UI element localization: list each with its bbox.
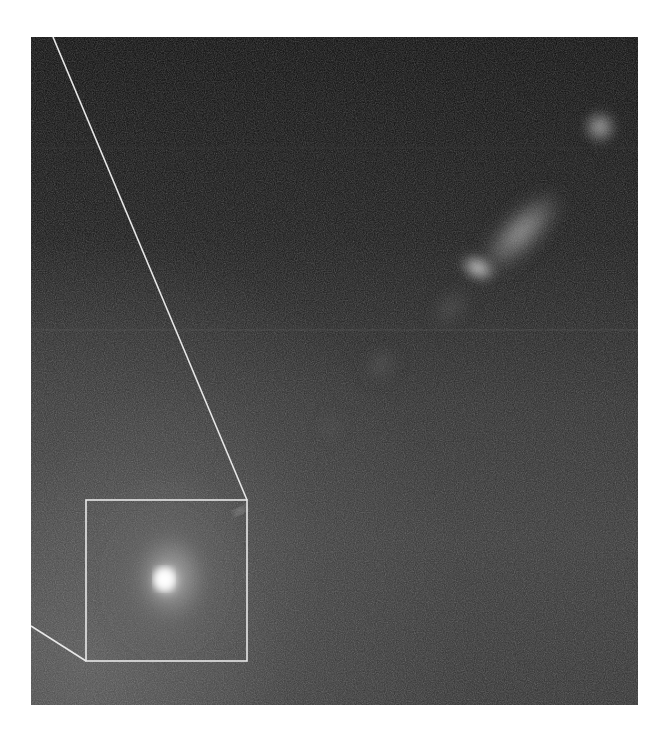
projection-line-bottom: [31, 626, 86, 661]
jet: [312, 174, 578, 447]
astronomical-image: [31, 37, 638, 705]
projection-line-top: [53, 37, 247, 500]
jet-terminal-blob: [580, 107, 620, 147]
astro-features: [31, 37, 638, 705]
